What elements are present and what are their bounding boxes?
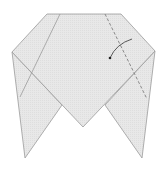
arrow-dot [109,57,112,60]
origami-diagram [0,0,161,171]
